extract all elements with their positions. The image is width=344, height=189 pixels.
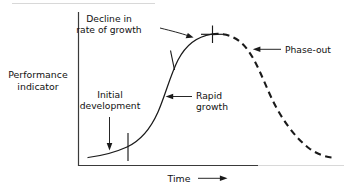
tick-rapid-growth-boundary (171, 51, 175, 71)
initial-development-label-line1: Initial (97, 89, 122, 100)
initial-development-arrow-head-icon (107, 143, 113, 151)
rapid-growth-label-line2: growth (196, 101, 228, 112)
annotation-decline-in-rate-of-growth: Decline in rate of growth (76, 13, 193, 38)
y-axis-label-line2: indicator (17, 81, 58, 92)
phase-out-arrow-head-icon (253, 47, 261, 53)
annotation-initial-development: Initial development (80, 89, 141, 151)
annotation-rapid-growth: Rapid growth (166, 90, 229, 112)
decline-label-line2: rate of growth (76, 24, 142, 35)
x-axis-arrow-head-icon (220, 176, 228, 182)
x-axis-label-group: Time (167, 173, 228, 184)
diagram-canvas: Decline in rate of growth Phase-out Init… (0, 0, 344, 189)
rapid-growth-arrow-head-icon (166, 94, 174, 100)
decline-arrow-head-icon (186, 33, 194, 38)
decline-label-line1: Decline in (86, 13, 132, 24)
y-axis-label-group: Performance indicator (8, 69, 68, 92)
phase-out-label: Phase-out (285, 44, 331, 55)
technology-s-curve-figure: Decline in rate of growth Phase-out Init… (0, 0, 344, 189)
initial-development-label-line2: development (80, 100, 141, 111)
decline-leader-line (160, 28, 189, 36)
y-axis-label-line1: Performance (8, 69, 68, 80)
annotation-phase-out: Phase-out (253, 44, 332, 55)
rapid-growth-label-line1: Rapid (196, 90, 222, 101)
x-axis-label: Time (167, 173, 191, 184)
